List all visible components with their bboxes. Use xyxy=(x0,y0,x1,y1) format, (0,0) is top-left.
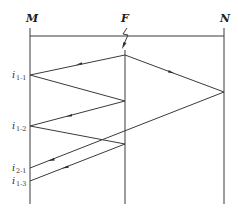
svg-text:1-1: 1-1 xyxy=(16,74,26,82)
wave-m-to-f-1 xyxy=(30,75,125,101)
arrow-left-icon xyxy=(76,62,82,64)
current-label-i1-1: i 1-1 xyxy=(12,69,26,82)
wave-m-to-f-2 xyxy=(30,126,125,144)
wave-f-to-m-1 xyxy=(30,55,125,75)
svg-text:1-2: 1-2 xyxy=(16,125,26,133)
arrow-left-icon xyxy=(48,158,55,161)
current-label-i2-1: i 2-1 xyxy=(12,162,26,175)
traveling-wave-lattice-diagram: M F N i 1-1 i 1-2 xyxy=(0,0,238,220)
bus-label-n: N xyxy=(219,12,231,25)
svg-text:i: i xyxy=(12,120,15,131)
svg-text:2-1: 2-1 xyxy=(16,167,26,175)
current-label-i1-2: i 1-2 xyxy=(12,120,26,133)
svg-text:i: i xyxy=(12,162,15,173)
wave-paths xyxy=(30,55,224,181)
arrow-right-icon xyxy=(168,70,174,73)
svg-text:i: i xyxy=(12,175,15,186)
arrow-left-icon xyxy=(66,114,72,117)
fault-lightning-icon xyxy=(122,28,128,49)
wave-f-to-m-2 xyxy=(30,101,125,126)
wave-f-to-n xyxy=(125,55,224,92)
svg-text:i: i xyxy=(12,69,15,80)
bus-label-f: F xyxy=(120,12,130,25)
arrow-left-icon xyxy=(62,165,69,168)
bus-label-m: M xyxy=(25,12,39,25)
current-label-i1-3: i 1-3 xyxy=(12,175,26,188)
svg-text:1-3: 1-3 xyxy=(16,180,26,188)
wave-n-to-m xyxy=(30,92,224,168)
